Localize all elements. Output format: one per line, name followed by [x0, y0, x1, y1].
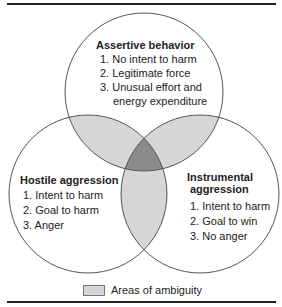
instrumental-item: 3. No anger [187, 229, 270, 244]
assertive-title: Assertive behavior [96, 38, 207, 52]
hostile-item: 1. Intent to harm [20, 188, 118, 203]
hostile-label: Hostile aggression 1. Intent to harm 2. … [20, 173, 118, 233]
legend: Areas of ambiguity [83, 284, 202, 296]
hostile-item: 3. Anger [20, 218, 118, 233]
legend-swatch [83, 285, 105, 296]
assertive-item: 2. Legitimate force [96, 66, 207, 80]
bottom-rule [7, 301, 276, 303]
assertive-item: 1. No intent to harm [96, 52, 207, 66]
hostile-item: 2. Goal to harm [20, 203, 118, 218]
assertive-item-continued: energy expenditure [96, 94, 207, 108]
instrumental-item: 1. Intent to harm [187, 199, 270, 214]
legend-label: Areas of ambiguity [111, 284, 202, 296]
instrumental-item: 2. Goal to win [187, 214, 270, 229]
instrumental-title-line1: Instrumental [187, 171, 270, 183]
hostile-title: Hostile aggression [20, 173, 118, 187]
assertive-item: 3. Unusual effort and [96, 80, 207, 94]
instrumental-title-line2: aggression [187, 183, 270, 195]
assertive-label: Assertive behavior 1. No intent to harm … [96, 38, 207, 108]
instrumental-label: Instrumental aggression 1. Intent to har… [187, 171, 270, 244]
